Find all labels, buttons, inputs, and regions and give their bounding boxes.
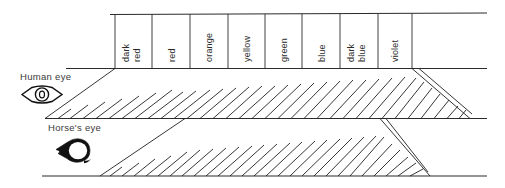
human-eye-icon <box>22 86 62 103</box>
band-label-red: red <box>167 48 177 62</box>
band-label-line: dark <box>121 43 131 62</box>
human-eye-label: Human eye <box>20 71 71 82</box>
band-label-line: orange <box>204 33 214 62</box>
horse-eye-row-label: Horse's eye <box>48 122 101 163</box>
horse-eye-label: Horse's eye <box>48 122 101 133</box>
human-wedge-right-edge-inner <box>419 69 472 115</box>
human-eye-row-label: Human eye <box>20 71 71 103</box>
human-wedge-right-edge <box>412 69 470 119</box>
band-label-orange: orange <box>204 33 214 62</box>
band-label-line: blue <box>357 44 367 62</box>
top-rule <box>110 13 487 15</box>
band-label-violet: violet <box>390 39 400 62</box>
horse-eye-wedge <box>100 119 430 177</box>
band-label-line: yellow <box>242 35 252 62</box>
horse-wedge-left-edge <box>100 119 185 177</box>
band-label-line: violet <box>390 39 400 62</box>
horse-eye-icon <box>56 139 91 163</box>
band-label-line: red <box>167 48 177 62</box>
spectrum-diagram: dark red red orange yellow green blue da… <box>0 0 505 188</box>
spectrum-band-labels: dark red red orange yellow green blue da… <box>121 33 400 62</box>
band-label-dark-blue: dark blue <box>346 43 367 62</box>
horse-wedge-right-edge-inner <box>386 119 428 173</box>
band-label-line: red <box>132 48 142 62</box>
spectrum-band-dividers <box>115 14 412 69</box>
human-eye-wedge <box>45 69 472 119</box>
band-label-line: green <box>279 38 289 62</box>
spectrum-figure: dark red red orange yellow green blue da… <box>0 0 505 188</box>
band-label-green: green <box>279 38 289 62</box>
band-label-yellow: yellow <box>242 35 252 62</box>
band-label-line: blue <box>317 44 327 62</box>
horse-wedge-right-edge <box>380 119 430 177</box>
band-label-dark-red: dark red <box>121 43 142 62</box>
band-label-line: dark <box>346 43 356 62</box>
horse-wedge-hatching <box>110 136 423 176</box>
human-wedge-hatching <box>58 77 466 119</box>
frame-rules <box>42 13 487 176</box>
band-label-blue: blue <box>317 44 327 62</box>
